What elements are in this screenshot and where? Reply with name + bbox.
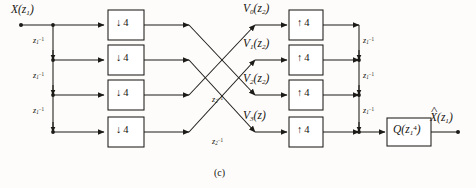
delay-label-output-0: z1−1 (363, 37, 374, 45)
upsampler-label-3: ↑ 4 (297, 125, 310, 136)
output-node (456, 130, 460, 134)
upsampler-label-2: ↑ 4 (297, 88, 310, 99)
delay-label-input-0: z1−1 (33, 37, 44, 45)
input-signal-label: X(z1) (11, 4, 34, 17)
delay-label-cross-1: z2−1 (212, 138, 223, 146)
delay-label-output-2: z1−1 (363, 107, 374, 115)
subband-label-v2: V2(z2) (243, 73, 269, 86)
signal-flow-diagram (0, 0, 476, 188)
delay-label-cross-0: z2−1 (212, 96, 223, 104)
downsampler-label-1: ↓ 4 (116, 53, 129, 64)
delay-label-input-1: z1−1 (33, 72, 44, 80)
downsampler-label-2: ↓ 4 (116, 88, 129, 99)
downsampler-label-0: ↓ 4 (116, 18, 129, 29)
output-signal-label: X(z1) (430, 112, 453, 125)
upsampler-label-0: ↑ 4 (297, 18, 310, 29)
delay-label-output-1: z1−1 (363, 72, 374, 80)
quantizer-label: Q(z14) (393, 124, 421, 137)
subband-label-v1: V1(z2) (243, 38, 269, 51)
delay-label-input-2: z1−1 (33, 107, 44, 115)
subband-label-v3: V3(z) (243, 110, 266, 123)
figure-caption: (c) (214, 168, 225, 178)
upsampler-label-1: ↑ 4 (297, 53, 310, 64)
downsampler-label-3: ↓ 4 (116, 125, 129, 136)
subband-label-v0: V0(z2) (243, 3, 269, 16)
